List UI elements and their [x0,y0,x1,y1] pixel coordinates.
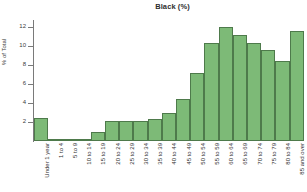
y-tick-label: 6 [23,80,26,87]
x-label-column: 65 to 69 [233,143,247,192]
bar-series [34,21,304,141]
x-label-column: 80 to 84 [275,143,289,192]
x-label-column: 15 to 19 [91,143,105,192]
chart-title: Black (%) [0,2,307,11]
bar [204,43,218,141]
bar-column [176,21,190,141]
bar-column [77,21,91,141]
bar [261,50,275,141]
bar [34,118,48,141]
x-label-column: 45 to 49 [176,143,190,192]
bar-column [261,21,275,141]
x-label-column: 70 to 74 [247,143,261,192]
x-label-column: 5 to 9 [62,143,76,192]
bar-column [247,21,261,141]
x-label-column: 50 to 54 [190,143,204,192]
x-label-column: Under 1 year [34,143,48,192]
bar-column [105,21,119,141]
y-tick-label: 2 [23,118,26,125]
bar [190,73,204,141]
y-tick-label: 12 [19,23,26,30]
bar [119,121,133,141]
x-label-column: 35 to 39 [148,143,162,192]
bar [233,35,247,141]
bar [133,121,147,141]
bar-column [91,21,105,141]
y-tick-label: 4 [23,99,26,106]
bar [91,132,105,141]
bar-column [148,21,162,141]
bar [48,139,62,141]
bar-column [219,21,233,141]
bar-column [133,21,147,141]
bar-column [290,21,304,141]
bar [105,121,119,141]
bar [176,99,190,141]
x-label-column: 75 to 79 [261,143,275,192]
bar-column [204,21,218,141]
bar [247,43,261,141]
bar [219,27,233,141]
bar-column [48,21,62,141]
bar [275,61,289,141]
y-tick-label: 8 [23,61,26,68]
bar-column [233,21,247,141]
bar [290,31,304,141]
x-label-column: 60 to 64 [219,143,233,192]
y-axis-label: % of Total [1,30,7,74]
bar-column [275,21,289,141]
x-label-column: 55 to 59 [204,143,218,192]
x-label-column: 10 to 14 [77,143,91,192]
bar [162,113,176,141]
x-label-column: 40 to 44 [162,143,176,192]
bar-chart: Black (%) % of Total 12108642 Under 1 ye… [0,0,307,192]
x-label-column: 85 and over [290,143,304,192]
bar [148,119,162,141]
bar [62,139,76,141]
bar-column [34,21,48,141]
x-label-column: 30 to 34 [133,143,147,192]
bar-column [62,21,76,141]
bar-column [119,21,133,141]
x-axis-labels: Under 1 year1 to 45 to 910 to 1415 to 19… [34,143,304,192]
x-label-column: 1 to 4 [48,143,62,192]
bar-column [162,21,176,141]
x-label-column: 20 to 24 [105,143,119,192]
bar-column [190,21,204,141]
x-label-column: 25 to 29 [119,143,133,192]
x-tick-label: 85 and over [299,143,305,175]
bar [77,139,91,141]
y-tick-label: 10 [19,42,26,49]
